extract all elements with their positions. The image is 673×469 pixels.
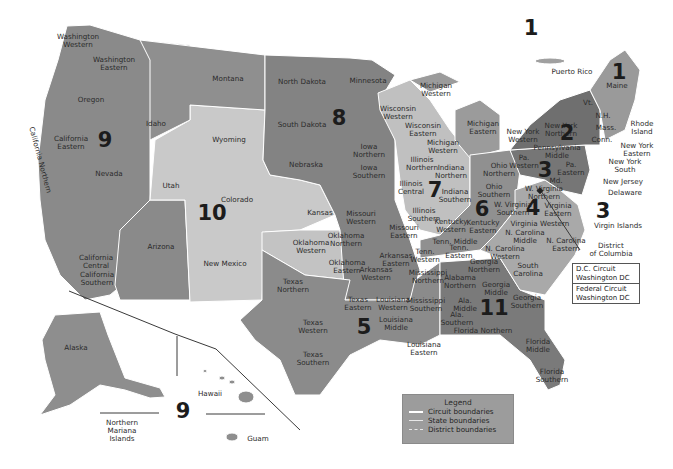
district-label: Virgin Islands <box>594 222 642 230</box>
district-label: Delaware <box>608 189 642 197</box>
circuit-boundary-swatch <box>409 411 423 413</box>
district-label: Mississippi Northern <box>409 269 447 285</box>
district-label: Tenn. Western <box>410 248 439 264</box>
district-label: California Southern <box>80 271 114 287</box>
district-label: Indiana Southern <box>439 188 472 204</box>
district-label: Mass. <box>596 124 616 132</box>
district-label: Kentucky Eastern <box>467 219 500 235</box>
district-label: N. Carolina Western <box>485 245 525 261</box>
district-label: Oregon <box>78 96 104 104</box>
circuit-number: 9 <box>176 399 191 423</box>
district-label: Arizona <box>148 243 175 251</box>
district-label: Virginia Eastern <box>544 202 571 218</box>
district-label: Missouri Eastern <box>389 224 419 240</box>
district-label: Utah <box>162 182 179 190</box>
legend-title: Legend <box>403 398 513 407</box>
district-label: Texas Western <box>298 319 327 335</box>
district-label: Nebraska <box>289 161 323 169</box>
district-label: Northern Mariana Islands <box>106 419 138 443</box>
island-guam <box>226 433 238 441</box>
district-label: Illinois Central <box>398 180 424 196</box>
circuit-number: 1 <box>612 60 627 84</box>
district-label: Virginia Western <box>511 220 570 228</box>
circuit-number: 3 <box>596 199 611 223</box>
circuit-number: 5 <box>357 315 372 339</box>
district-label: Washington Western <box>57 33 99 49</box>
circuit-number: 6 <box>475 197 490 221</box>
district-label: Oklahoma Western <box>293 239 330 255</box>
district-label: Montana <box>212 75 243 83</box>
legend-item-circuit: Circuit boundaries <box>409 407 513 416</box>
district-label: Iowa Northern <box>353 143 385 159</box>
district-label: Ala. Southern <box>441 311 474 327</box>
district-label: Pa. Western <box>509 154 538 170</box>
district-label: South Dakota <box>278 121 327 129</box>
district-label: Georgia Middle <box>482 281 510 297</box>
district-label: Louisiana Eastern <box>407 341 441 357</box>
district-label: Wisconsin Western <box>380 105 416 121</box>
legend-item-district: District boundaries <box>409 425 513 434</box>
district-label: Michigan Western <box>420 82 452 98</box>
federal-circuit-label: Federal Circuit Washington DC <box>573 283 639 303</box>
district-label: Michigan Eastern <box>467 120 499 136</box>
circuit-box: D.C. Circuit Washington DC Federal Circu… <box>572 263 640 304</box>
district-label: Arkansas Western <box>360 266 393 282</box>
district-label: N. Carolina Eastern <box>546 237 586 253</box>
circuit-number: 4 <box>526 196 541 220</box>
district-label: Alabama Northern <box>444 274 476 290</box>
region-alaska <box>40 312 165 415</box>
district-label: New Jersey <box>603 178 643 186</box>
dc-circuit-label: D.C. Circuit Washington DC <box>573 264 639 283</box>
circuit-number: 11 <box>479 296 508 320</box>
district-label: Oklahoma Northern <box>328 232 365 248</box>
district-label: Kansas <box>307 209 332 217</box>
district-label: North Dakota <box>278 78 326 86</box>
district-label: Pa. Eastern <box>557 161 584 177</box>
district-label: New York South <box>609 158 642 174</box>
district-label: Idaho <box>146 120 166 128</box>
district-label: Washington Eastern <box>93 56 135 72</box>
island-puerto-rico <box>535 58 565 64</box>
district-label: Georgia Southern <box>511 294 544 310</box>
district-label: Louisiana Middle <box>379 316 413 332</box>
district-label: District of Columbia <box>589 242 632 258</box>
district-label: Minnesota <box>349 77 386 85</box>
district-label: California Central <box>79 254 113 270</box>
island-hawaii <box>238 391 254 403</box>
circuit-number: 9 <box>98 128 113 152</box>
district-label: Iowa Southern <box>353 164 386 180</box>
district-label: Puerto Rico <box>552 68 593 76</box>
state-boundary-swatch <box>409 420 423 421</box>
district-label: Wyoming <box>212 136 246 144</box>
district-label: Louisiana Western <box>376 296 410 312</box>
district-label: Florida Middle <box>526 338 550 354</box>
district-label: New York Eastern <box>621 142 654 158</box>
circuit-number: 1 <box>524 16 539 40</box>
district-label: Michigan Western <box>427 139 459 155</box>
legend: Legend Circuit boundaries State boundari… <box>402 394 514 444</box>
circuit-number: 2 <box>560 121 575 145</box>
district-label: Florida Southern <box>536 368 569 384</box>
district-label: Guam <box>247 435 269 443</box>
district-label: Vt. <box>583 99 593 107</box>
district-label: Illinois Northern <box>406 156 438 172</box>
district-label: South Carolina <box>513 262 543 278</box>
circuit-number: 3 <box>538 158 553 182</box>
district-label: Conn. <box>592 136 613 144</box>
district-label: New York Western <box>507 128 540 144</box>
district-label: Alaska <box>64 344 88 352</box>
district-label: Hawaii <box>198 390 222 398</box>
district-label: N.H. <box>595 112 610 120</box>
circuit-number: 10 <box>197 201 226 225</box>
district-label: Missouri Western <box>346 210 376 226</box>
district-label: Wisconsin Eastern <box>405 122 441 138</box>
district-label: Nevada <box>95 170 122 178</box>
district-label: Texas Northern <box>277 278 309 294</box>
district-label: Texas Southern <box>297 351 330 367</box>
circuit-number: 7 <box>428 178 443 202</box>
district-label: Mississippi Southern <box>407 297 445 313</box>
district-label: Florida Northern <box>454 327 513 335</box>
district-boundary-swatch <box>409 429 423 430</box>
district-label: Rhode Island <box>631 120 654 136</box>
district-label: Texas Eastern <box>344 296 371 312</box>
